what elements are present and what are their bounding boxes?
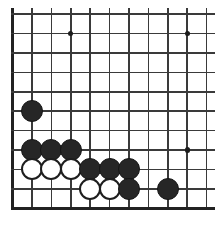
grid-line-horizontal-3 <box>11 72 215 74</box>
star-point-upper-left <box>68 31 73 36</box>
grid-line-horizontal-10 <box>11 207 215 210</box>
grid-line-vertical-7 <box>148 8 150 209</box>
star-point-upper-right <box>185 31 190 36</box>
white-stone-w4-r9[interactable] <box>79 178 101 200</box>
grid-line-horizontal-4 <box>11 91 215 93</box>
black-stone-b1-r5[interactable] <box>21 100 43 122</box>
go-board-figure <box>0 0 215 231</box>
grid-line-horizontal-6 <box>11 130 215 132</box>
black-stone-b8-r9[interactable] <box>157 178 179 200</box>
grid-line-vertical-9 <box>186 8 188 209</box>
go-board[interactable] <box>0 0 215 231</box>
grid-line-horizontal-0 <box>11 13 215 15</box>
grid-line-vertical-0 <box>11 8 14 210</box>
grid-line-vertical-10 <box>206 8 208 209</box>
star-point-lower-right <box>185 147 190 152</box>
grid-line-horizontal-2 <box>11 52 215 54</box>
black-stone-b6-r9[interactable] <box>118 178 140 200</box>
